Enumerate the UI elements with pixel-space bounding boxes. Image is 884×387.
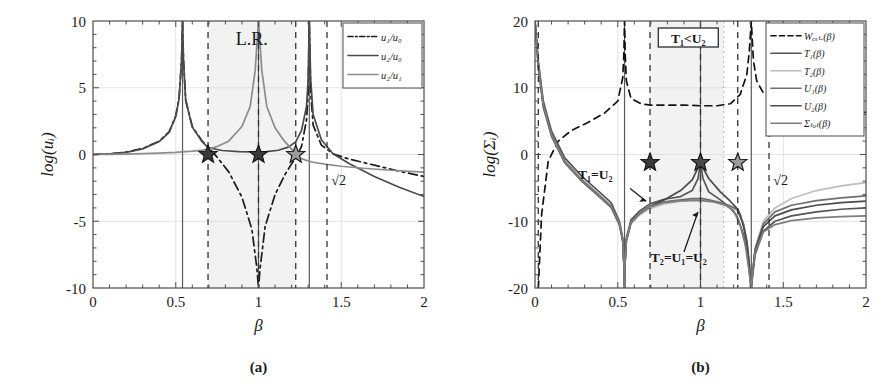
figure-container: 00.511.521050-5-10βlog(uᵢ)(a)u₁/u₀u₂/u₀u… <box>0 0 884 387</box>
t1-equals-u2-label: T₁=U₂ <box>578 167 613 182</box>
x-tick-label-4: 1.5 <box>332 294 351 310</box>
legend-label-1: Wₑₓₜ.(β) <box>804 31 836 43</box>
t2-equals-u1-equals-u2-label: T₂=U₁=U₂ <box>651 250 707 265</box>
sqrt2-label: √2 <box>331 173 346 188</box>
x-tick-label-5: 2 <box>420 294 428 310</box>
legend-label-1: u₁/u₀ <box>381 32 402 43</box>
y-tick-label-1: 10 <box>71 14 86 30</box>
panel-a: 00.511.521050-5-10βlog(uᵢ)(a)u₁/u₀u₂/u₀u… <box>0 0 442 387</box>
legend-label-5: U₂(β) <box>804 101 827 113</box>
y-tick-label-3: 0 <box>521 147 529 163</box>
x-tick-label-2: 0.5 <box>166 294 185 310</box>
lr-label: L.R. <box>236 29 268 49</box>
inequality-box-label: T₁<U₂ <box>671 31 706 46</box>
y-tick-label-4: -5 <box>74 214 87 230</box>
x-tick-label-1: 0 <box>89 294 97 310</box>
y-tick-label-2: 5 <box>79 80 87 96</box>
panel-caption: (b) <box>691 359 709 376</box>
legend: u₁/u₀u₂/u₀u₂/u₁ <box>343 23 422 88</box>
x-tick-label-3: 1 <box>255 294 263 310</box>
panel-caption: (a) <box>250 359 268 376</box>
chart-a: 00.511.521050-5-10βlog(uᵢ)(a)u₁/u₀u₂/u₀u… <box>0 0 442 387</box>
sqrt2-label: √2 <box>773 173 788 188</box>
y-tick-label-2: 10 <box>513 80 528 96</box>
y-axis-label: log(Σᵢ) <box>480 131 499 177</box>
x-tick-label-3: 1 <box>697 294 705 310</box>
legend-label-3: u₂/u₁ <box>381 70 402 81</box>
x-tick-label-2: 0.5 <box>608 294 627 310</box>
legend-label-3: T₂(β) <box>804 66 825 78</box>
panel-b: 00.511.5220100-10-20βlog(Σᵢ)(b)Wₑₓₜ.(β)T… <box>442 0 884 387</box>
x-axis-label: β <box>253 316 263 335</box>
y-tick-label-3: 0 <box>79 147 87 163</box>
legend-label-6: Σₜₒₜ(β) <box>803 118 831 130</box>
y-tick-label-5: -10 <box>66 281 86 297</box>
legend-label-2: T₁(β) <box>804 48 825 60</box>
legend: Wₑₓₜ.(β)T₁(β)T₂(β)U₁(β)U₂(β)Σₜₒₜ(β) <box>766 23 864 136</box>
legend-label-2: u₂/u₀ <box>381 51 402 62</box>
x-axis-label: β <box>695 316 705 335</box>
x-tick-label-5: 2 <box>862 294 870 310</box>
y-tick-label-4: -10 <box>508 214 528 230</box>
x-tick-label-1: 0 <box>531 294 539 310</box>
y-tick-label-5: -20 <box>508 281 528 297</box>
chart-b: 00.511.5220100-10-20βlog(Σᵢ)(b)Wₑₓₜ.(β)T… <box>442 0 884 387</box>
y-axis-label: log(uᵢ) <box>38 132 57 177</box>
x-tick-label-4: 1.5 <box>774 294 793 310</box>
legend-label-4: U₁(β) <box>804 83 827 95</box>
y-tick-label-1: 20 <box>513 14 528 30</box>
